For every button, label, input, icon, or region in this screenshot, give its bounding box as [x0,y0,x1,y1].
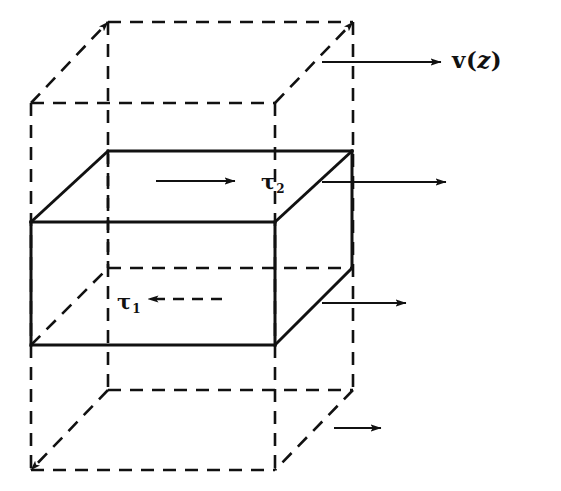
velocity-profile-label: v(z) [452,48,502,71]
tau2-symbol: τ [261,169,275,194]
inner-bottom-right-depth [275,268,352,345]
tau1-symbol: τ [117,289,131,314]
inner-top-right-depth [275,151,352,222]
outer-dashed-control-volume [31,22,353,470]
velocity-label-open-paren: ( [466,46,477,73]
inner-hidden-depth-edge-left [31,268,108,345]
velocity-label-prefix: v [452,46,466,73]
tau1-subscript: 1 [132,302,140,316]
outer-depth-edges [31,22,353,470]
inner-top-left-depth [31,151,108,222]
tau2-subscript: 2 [276,182,284,196]
shear-stress-tau1-label: τ1 [117,291,141,315]
diagram-vector-surface [0,0,561,491]
outer-depth-edge-bottom-left [31,390,108,470]
figure-canvas: v(z) τ2 τ1 [0,0,561,491]
velocity-label-close-paren: ) [491,46,502,73]
outer-depth-edge-top-left [31,22,108,103]
outer-depth-edge-bottom-right [275,390,353,470]
velocity-label-variable: z [477,46,491,73]
velocity-profile-arrows [322,62,446,428]
shear-stress-tau2-label: τ2 [261,171,285,195]
